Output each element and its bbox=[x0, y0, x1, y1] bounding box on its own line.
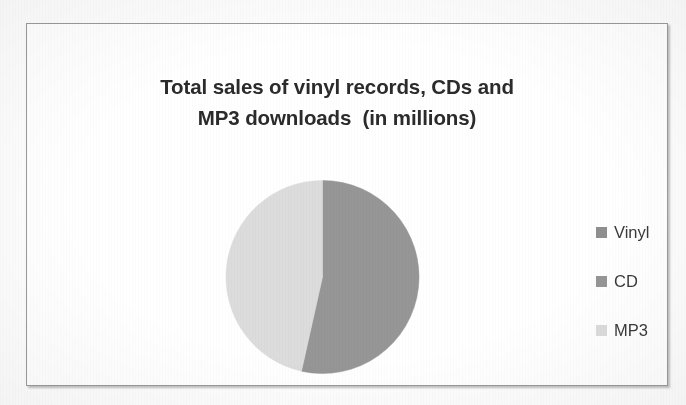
chart-legend: Vinyl CD MP3 bbox=[596, 220, 686, 342]
legend-label-mp3: MP3 bbox=[614, 321, 648, 339]
legend-item-cd[interactable]: CD bbox=[596, 269, 686, 293]
legend-swatch-icon-cd bbox=[596, 276, 607, 287]
legend-label-vinyl: Vinyl bbox=[614, 223, 649, 241]
pie-slice-group bbox=[226, 180, 419, 373]
pie-slice-mp3[interactable] bbox=[226, 180, 323, 371]
chart-title-line-2: MP3 downloads (in millions) bbox=[87, 102, 587, 133]
pie-chart-svg bbox=[224, 178, 421, 376]
legend-swatch-icon-vinyl bbox=[596, 227, 607, 238]
legend-swatch-icon-mp3 bbox=[596, 325, 607, 336]
legend-item-mp3[interactable]: MP3 bbox=[596, 318, 686, 342]
pie-chart bbox=[224, 178, 421, 376]
chart-frame: Total sales of vinyl records, CDs and MP… bbox=[26, 23, 668, 386]
legend-item-vinyl[interactable]: Vinyl bbox=[596, 220, 686, 244]
chart-title: Total sales of vinyl records, CDs and MP… bbox=[87, 71, 587, 133]
chart-title-line-1: Total sales of vinyl records, CDs and bbox=[87, 71, 587, 102]
legend-label-cd: CD bbox=[614, 272, 638, 290]
